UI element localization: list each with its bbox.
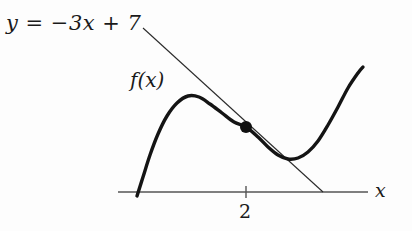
tangency-point-marker [240, 121, 252, 133]
math-figure: y = −3x + 7 f(x) x 2 [0, 0, 412, 231]
x-axis-tick-label-2: 2 [239, 202, 251, 221]
x-axis-label: x [375, 181, 386, 200]
function-curve [137, 67, 363, 196]
tangent-line-equation-label: y = −3x + 7 [6, 13, 141, 34]
function-curve-label: f(x) [130, 70, 164, 90]
